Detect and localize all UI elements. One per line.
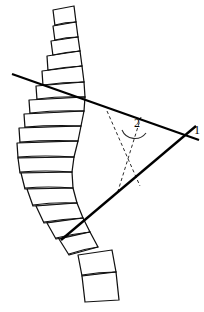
label-2: 2 xyxy=(134,116,140,130)
spine-diagram-canvas: 12 xyxy=(0,0,204,312)
vertebra-18 xyxy=(82,272,119,302)
cobb-angle-diagram: 12 xyxy=(0,0,204,312)
label-1: 1 xyxy=(194,123,200,137)
